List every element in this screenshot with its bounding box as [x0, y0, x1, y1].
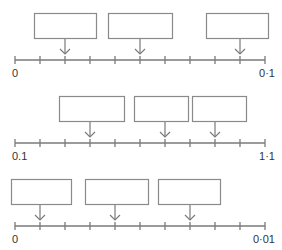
number-lines-diagram — [0, 0, 282, 250]
end-label: 0·01 — [253, 234, 275, 245]
answer-box[interactable] — [159, 180, 221, 205]
end-label: 0·1 — [259, 68, 275, 79]
number-line-2 — [15, 97, 265, 148]
start-label: 0 — [12, 68, 18, 79]
answer-box[interactable] — [207, 14, 269, 39]
start-label: 0 — [12, 234, 18, 245]
answer-box[interactable] — [12, 180, 72, 205]
end-label: 1·1 — [259, 151, 275, 162]
answer-box[interactable] — [35, 14, 97, 39]
start-label: 0.1 — [12, 151, 27, 162]
answer-box[interactable] — [135, 97, 189, 122]
answer-box[interactable] — [60, 97, 125, 122]
answer-box[interactable] — [86, 180, 149, 205]
answer-box[interactable] — [109, 14, 173, 39]
number-line-1 — [15, 14, 269, 65]
answer-box[interactable] — [193, 97, 247, 122]
number-line-3 — [12, 180, 266, 231]
